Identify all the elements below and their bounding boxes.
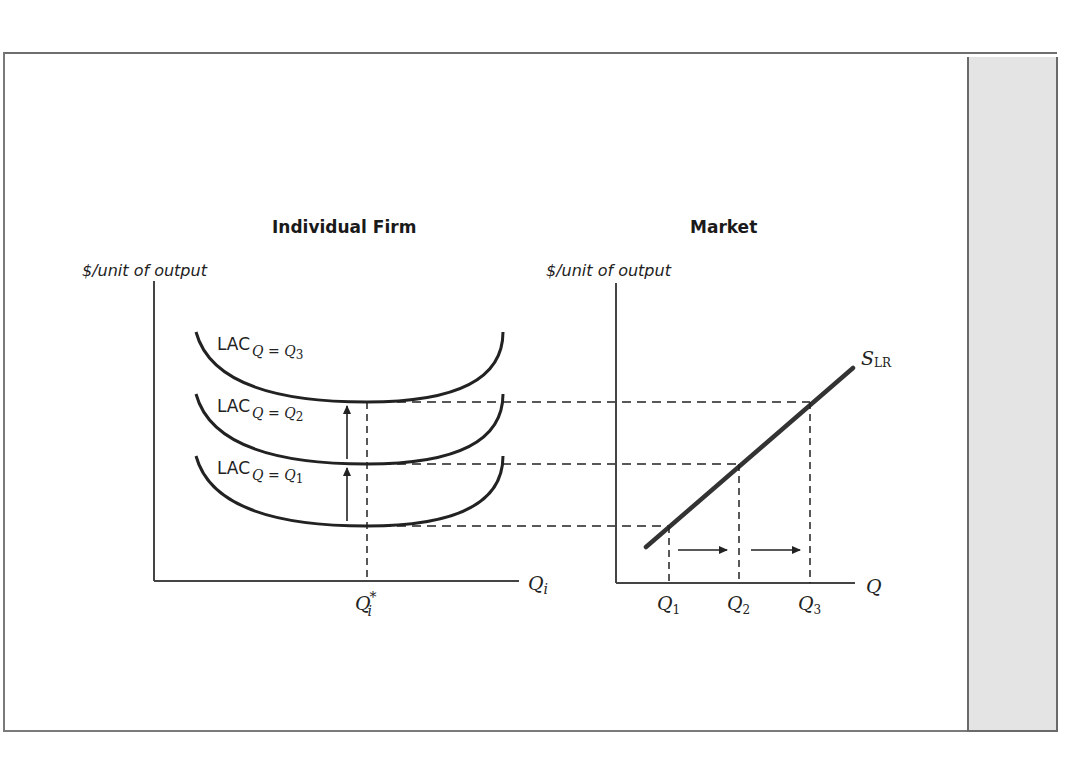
- lac-label-q2: LACQ = Q2: [217, 396, 303, 424]
- long-run-supply-curve: [646, 368, 853, 547]
- right-y-axis-label: $/unit of output: [546, 261, 672, 280]
- increasing-cost-industry-diagram: Individual Firm $/unit of output LACQ = …: [0, 0, 1065, 783]
- qi-star-tick-label: Q*i: [355, 589, 377, 619]
- lac-label-q3: LACQ = Q3: [217, 334, 303, 362]
- market-title: Market: [690, 217, 757, 237]
- left-y-axis-label: $/unit of output: [82, 261, 208, 280]
- market-panel: Market $/unit of output SLR Q Q1 Q2 Q3: [546, 217, 892, 617]
- q3-tick-label: Q3: [798, 592, 821, 617]
- left-x-axis-label: Qi: [528, 572, 548, 597]
- q1-tick-label: Q1: [657, 592, 680, 617]
- lac-label-q1: LACQ = Q1: [217, 458, 303, 486]
- supply-label: SLR: [861, 347, 892, 370]
- individual-firm-panel: Individual Firm $/unit of output LACQ = …: [82, 217, 548, 619]
- right-x-axis-label: Q: [866, 575, 882, 597]
- q2-tick-label: Q2: [727, 592, 750, 617]
- individual-firm-title: Individual Firm: [272, 217, 416, 237]
